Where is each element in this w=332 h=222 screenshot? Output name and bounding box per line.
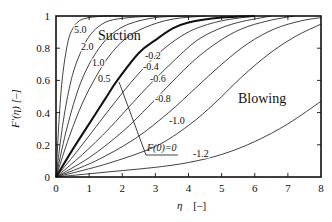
y-tick-label: 0.8 [36,42,50,54]
curve-label: 0.5 [98,73,111,84]
curve-label: 5.0 [74,24,87,35]
x-axis-symbol: η [177,199,182,211]
y-tick-label: 0.6 [36,74,50,86]
blowing-label: Blowing [238,91,286,106]
suction-label: Suction [98,28,141,43]
curve-label: -0.4 [143,61,159,72]
f0-annotation: F(0)=0 [146,142,177,154]
curve-label: -1.0 [169,115,185,126]
curve-label: -1.2 [193,148,209,159]
x-tick-label: 5 [219,182,225,194]
x-tick-label: 2 [120,182,126,194]
x-tick-label: 8 [318,182,324,194]
x-axis-title: η [–] [177,199,206,211]
x-tick-label: 1 [86,182,92,194]
x-axis-unit: [–] [193,199,206,211]
y-tick-label: 0 [45,171,51,183]
x-tick-label: 0 [53,182,59,194]
x-tick-label: 7 [285,182,291,194]
curve-label: -0.6 [150,73,166,84]
chart: 01234567800.20.40.60.81 5.02.01.00.5-0.2… [0,0,332,222]
y-tick-label: 0.4 [36,107,50,119]
y-tick-label: 0.2 [36,139,50,151]
curve-label: -0.8 [155,93,171,104]
x-tick-label: 6 [252,182,258,194]
curve-labels: 5.02.01.00.5-0.2-0.4-0.6-0.8-1.0-1.2 [74,24,209,159]
curve-label: 2.0 [81,41,94,52]
y-tick-label: 1 [45,10,51,22]
curve-label: 1.0 [92,57,105,68]
x-tick-label: 3 [153,182,159,194]
curve-label: -0.2 [145,50,161,61]
y-axis-title: F′(η) [–] [9,89,22,129]
x-tick-label: 4 [186,182,192,194]
